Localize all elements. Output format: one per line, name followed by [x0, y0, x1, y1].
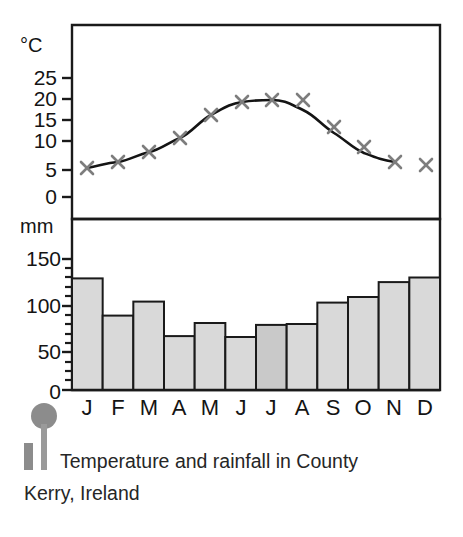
caption-line-1: Temperature and rainfall in County	[60, 450, 358, 472]
temperature-marker-dec	[420, 159, 432, 171]
caption-line-2: Kerry, Ireland	[24, 482, 140, 504]
rainfall-bar-nov	[379, 282, 410, 390]
legend-bar-icon	[24, 443, 33, 470]
rainfall-bar-aug	[287, 324, 318, 390]
temp-tick-label-5: 5	[45, 158, 57, 181]
month-label-sep: S	[326, 395, 341, 420]
month-label-aug: A	[295, 395, 310, 420]
month-label-dec: D	[417, 395, 433, 420]
month-label-may: M	[201, 395, 219, 420]
rainfall-panel: mm 150 100 50 0	[20, 215, 440, 403]
temp-tick-label-0: 0	[45, 185, 57, 208]
rain-tick-label-100: 100	[26, 294, 61, 317]
temperature-data-markers	[81, 94, 432, 174]
rainfall-axis-unit-label: mm	[20, 215, 53, 237]
rainfall-bar-may	[195, 323, 226, 390]
temperature-line	[87, 100, 395, 168]
temperature-marker-oct	[358, 141, 370, 153]
rain-tick-label-0: 0	[49, 380, 61, 403]
month-label-jun: J	[236, 395, 247, 420]
rainfall-bar-jun	[225, 337, 256, 390]
climograph-figure: °C 25 20 15 10 5 0	[0, 0, 463, 537]
month-label-apr: A	[172, 395, 187, 420]
month-label-mar: M	[140, 395, 158, 420]
rainfall-bar-jul	[256, 325, 287, 390]
temp-tick-label-10: 10	[34, 129, 57, 152]
month-label-feb: F	[111, 395, 124, 420]
temperature-panel: °C 25 20 15 10 5 0	[20, 25, 440, 219]
temp-tick-label-20: 20	[34, 87, 57, 110]
temperature-axis-ticks	[62, 78, 72, 197]
month-label-nov: N	[386, 395, 402, 420]
month-label-oct: O	[354, 395, 371, 420]
rainfall-bar-feb	[103, 316, 134, 390]
temperature-axis-unit-label: °C	[20, 34, 42, 56]
rainfall-bar-jan	[72, 278, 103, 390]
temperature-panel-frame	[72, 25, 440, 219]
rainfall-bar-dec	[409, 278, 440, 391]
temperature-marker-aug	[297, 94, 309, 106]
rain-tick-label-50: 50	[38, 340, 61, 363]
rainfall-bar-sep	[317, 303, 348, 390]
month-label-jan: J	[82, 395, 93, 420]
rainfall-bars	[72, 278, 440, 391]
map-pin-icon	[31, 403, 57, 470]
temperature-marker-may	[205, 109, 217, 121]
rainfall-bar-apr	[164, 336, 195, 390]
month-axis-labels: J F M A M J J A S O N D	[82, 395, 433, 420]
temperature-marker-apr	[174, 132, 186, 144]
rainfall-bar-mar	[133, 302, 164, 390]
temperature-marker-sep	[328, 121, 340, 133]
temp-tick-label-25: 25	[34, 66, 57, 89]
temp-tick-label-15: 15	[34, 108, 57, 131]
month-label-jul: J	[266, 395, 277, 420]
rainfall-bar-oct	[348, 297, 379, 390]
rain-tick-label-150: 150	[26, 247, 61, 270]
